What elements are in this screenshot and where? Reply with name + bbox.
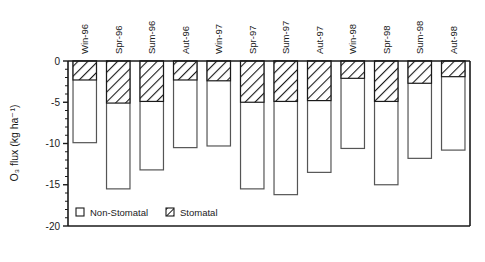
chart-legend: Non-Stomatal Stomatal [76,207,218,218]
bar-stomatal [207,61,230,81]
bar-stomatal [308,61,331,101]
legend-label-stomatal: Stomatal [180,207,218,218]
y-tick-label: -10 [46,138,61,149]
bar-stomatal [140,61,163,101]
x-tick-label: Spr-98 [381,25,392,54]
x-tick-label: Aut-97 [314,26,325,54]
bar-stomatal [107,61,130,103]
bar-stomatal [241,61,264,102]
x-tick-label: Win-98 [347,24,358,54]
y-tick-label: -5 [51,97,60,108]
legend-swatch-non-stomatal [76,208,84,216]
y-tick-label: 0 [54,56,60,67]
x-tick-label: Aut-98 [448,26,459,54]
y-tick-label: -20 [46,221,61,232]
bar-stomatal [73,61,96,80]
legend-swatch-stomatal [166,208,174,216]
x-tick-label: Win-97 [213,24,224,54]
x-tick-label: Sum-96 [146,21,157,54]
o3-flux-stacked-bar-chart: 0-5-10-15-20 Win-96Spr-96Sum-96Aut-96Win… [0,0,485,262]
x-tick-label: Spr-97 [247,25,258,54]
x-tick-label: Aut-96 [180,26,191,54]
x-tick-label: Win-96 [79,24,90,54]
bar-stomatal [442,61,465,77]
bar-stomatal [408,61,431,83]
x-tick-label: Sum-98 [414,21,425,54]
y-axis-label: O₃ flux (kg ha⁻¹) [8,105,20,182]
bar-stomatal [174,61,197,80]
bar-stomatal [375,61,398,101]
bar-stomatal [341,61,364,78]
legend-label-non-stomatal: Non-Stomatal [90,207,148,218]
x-tick-label: Sum-97 [280,21,291,54]
x-tick-label: Spr-96 [113,25,124,54]
bar-stomatal [274,61,297,101]
y-tick-label: -15 [46,179,61,190]
